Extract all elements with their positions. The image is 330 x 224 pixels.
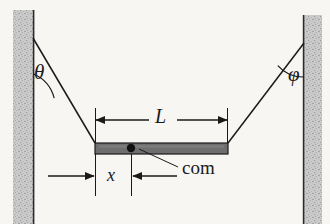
angle-phi-label: φ <box>288 64 300 85</box>
com-label: com <box>182 158 215 177</box>
beam <box>95 143 228 154</box>
angle-theta-label: θ <box>34 62 44 83</box>
dimension-x-label: x <box>107 166 115 184</box>
right-rope <box>228 43 304 143</box>
left-wall <box>13 10 34 224</box>
left-rope <box>33 38 95 143</box>
dimension-L-label: L <box>155 106 166 126</box>
physics-diagram: θ φ L x com <box>0 0 330 224</box>
right-wall <box>303 15 322 224</box>
